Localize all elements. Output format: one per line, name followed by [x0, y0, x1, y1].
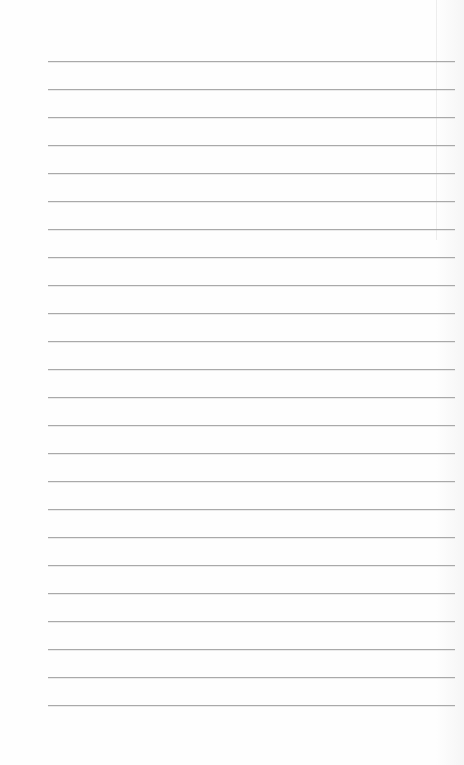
- ruled-line: [48, 61, 455, 62]
- lined-paper-page: [0, 0, 464, 765]
- ruled-line: [48, 229, 455, 230]
- ruled-line: [48, 369, 455, 370]
- ruled-line: [48, 145, 455, 146]
- ruled-line: [48, 621, 455, 622]
- ruled-line: [48, 509, 455, 510]
- ruled-line: [48, 425, 455, 426]
- ruled-line: [48, 705, 455, 706]
- paper-edge-shadow: [436, 0, 464, 765]
- ruled-line: [48, 677, 455, 678]
- ruled-line: [48, 285, 455, 286]
- ruled-line: [48, 649, 455, 650]
- ruled-line: [48, 117, 455, 118]
- ruled-line: [48, 537, 455, 538]
- ruled-line: [48, 481, 455, 482]
- ruled-line: [48, 313, 455, 314]
- ruled-line: [48, 565, 455, 566]
- ruled-line: [48, 173, 455, 174]
- ruled-line: [48, 257, 455, 258]
- ruled-line: [48, 397, 455, 398]
- ruled-line: [48, 593, 455, 594]
- ruled-line: [48, 201, 455, 202]
- ruled-line: [48, 89, 455, 90]
- ruled-line: [48, 341, 455, 342]
- ruled-line: [48, 453, 455, 454]
